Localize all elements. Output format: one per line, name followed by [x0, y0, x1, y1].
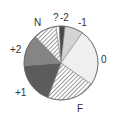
slice-label: -2 — [60, 13, 69, 23]
slice-label: -1 — [78, 18, 87, 28]
slice-label: +2 — [10, 45, 21, 55]
slice-label: +1 — [15, 88, 26, 98]
slice-label: N — [34, 18, 41, 28]
slice-label: ? — [53, 13, 59, 23]
slice-label: 0 — [101, 55, 107, 65]
slice-label: F — [77, 104, 83, 114]
